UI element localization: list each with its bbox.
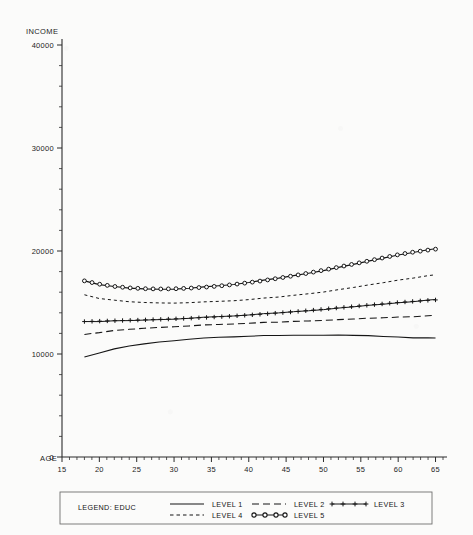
series-level-5 [83,247,438,291]
legend-label: LEVEL 2 [294,500,325,509]
legend-item-level-5[interactable]: LEVEL 5 [252,511,325,520]
marker-circle-icon [342,264,346,268]
marker-circle-icon [197,286,201,290]
marker-plus-icon [388,301,392,305]
marker-plus-icon [410,299,414,303]
legend-label: LEVEL 1 [212,500,243,509]
marker-circle-icon [113,285,117,289]
marker-circle-icon [235,282,239,286]
marker-circle-icon [266,278,270,282]
marker-plus-icon [159,317,163,321]
marker-plus-icon [204,315,208,319]
legend-item-level-3[interactable]: LEVEL 3 [330,500,405,509]
legend-item-level-4[interactable]: LEVEL 4 [170,511,243,520]
marker-plus-icon [349,304,353,308]
marker-plus-icon [288,310,292,314]
marker-circle-icon [281,276,285,280]
legend-item-level-2[interactable]: LEVEL 2 [252,500,325,509]
marker-circle-icon [365,259,369,263]
axis-titles: INCOMEAGE [26,27,58,463]
legend-item-level-1[interactable]: LEVEL 1 [170,500,243,509]
y-tick-label: 20000 [32,247,54,256]
marker-plus-icon [136,318,140,322]
marker-plus-icon [197,316,201,320]
series-level-2 [84,315,435,334]
series-level-3 [82,298,438,324]
y-tick-label: 10000 [32,350,54,359]
chart-canvas: 010000200003000040000 152025303540455055… [0,0,473,535]
marker-circle-icon [395,253,399,257]
marker-circle-icon [434,247,438,251]
marker-circle-icon [411,250,415,254]
marker-plus-icon [181,316,185,320]
y-tick-label: 40000 [32,41,54,50]
y-axis-title: INCOME [26,27,58,36]
marker-plus-icon [105,319,109,323]
marker-circle-icon [151,287,155,291]
x-tick-label: 65 [431,465,440,474]
x-tick-label: 40 [244,465,253,474]
marker-circle-icon [350,263,354,267]
marker-plus-icon [403,300,407,304]
marker-circle-icon [357,261,361,265]
marker-circle-icon [90,281,94,285]
x-tick-label: 35 [207,465,216,474]
x-tick-label: 30 [170,465,179,474]
legend-marker-plus-icon [330,502,335,507]
legend-marker-plus-icon [341,502,346,507]
marker-plus-icon [120,318,124,322]
marker-plus-icon [326,307,330,311]
marker-plus-icon [227,314,231,318]
x-tick-labels: 1520253035404550556065 [58,465,440,474]
marker-plus-icon [220,314,224,318]
marker-plus-icon [372,302,376,306]
marker-plus-icon [296,309,300,313]
x-tick-label: 55 [356,465,365,474]
marker-plus-icon [151,317,155,321]
marker-circle-icon [289,274,293,278]
data-series-group [82,247,438,357]
marker-plus-icon [334,306,338,310]
marker-circle-icon [228,283,232,287]
marker-plus-icon [418,299,422,303]
marker-plus-icon [166,317,170,321]
marker-circle-icon [334,266,338,270]
marker-plus-icon [319,307,323,311]
marker-plus-icon [235,314,239,318]
marker-circle-icon [426,248,430,252]
x-tick-label: 50 [319,465,328,474]
legend-marker-circle-icon [274,513,278,517]
marker-plus-icon [189,316,193,320]
series-level-1 [84,335,435,357]
marker-circle-icon [243,281,247,285]
x-tick-label: 15 [58,465,67,474]
marker-circle-icon [212,285,216,289]
marker-circle-icon [380,256,384,260]
marker-plus-icon [395,300,399,304]
x-tick-label: 45 [282,465,291,474]
series-line [84,315,435,334]
marker-circle-icon [327,267,331,271]
legend-marker-plus-icon [353,502,358,507]
x-tick-label: 20 [95,465,104,474]
marker-plus-icon [304,309,308,313]
marker-circle-icon [273,277,277,281]
marker-plus-icon [273,311,277,315]
marker-circle-icon [319,269,323,273]
series-line [84,335,435,357]
marker-circle-icon [296,273,300,277]
marker-circle-icon [388,255,392,259]
marker-circle-icon [403,252,407,256]
marker-plus-icon [143,318,147,322]
legend-marker-plus-icon [364,502,369,507]
marker-plus-icon [82,319,86,323]
marker-plus-icon [243,313,247,317]
legend-label: LEVEL 5 [294,511,325,520]
chart-axes [57,39,447,462]
legend-title: LEGEND: EDUC [78,503,136,512]
legend-label: LEVEL 3 [374,500,405,509]
x-tick-label: 25 [132,465,141,474]
x-axis-title: AGE [40,454,57,463]
marker-plus-icon [174,317,178,321]
legend-marker-circle-icon [283,513,287,517]
